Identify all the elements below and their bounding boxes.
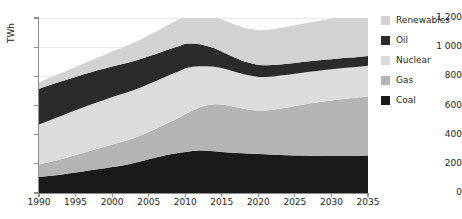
legend-label: Renewables xyxy=(396,15,450,25)
y-tick-label: 400 xyxy=(432,129,462,139)
legend-swatch-icon xyxy=(381,16,390,25)
legend-item-gas[interactable]: Gas xyxy=(381,70,461,90)
legend-swatch-icon xyxy=(381,96,390,105)
plot-area xyxy=(39,18,368,193)
x-tick-label: 2025 xyxy=(275,197,315,207)
area-layers xyxy=(39,18,368,193)
x-tick-label: 2035 xyxy=(348,197,388,207)
legend-item-coal[interactable]: Coal xyxy=(381,90,461,110)
chart-screenshot: Scenario TWh 02004006008001 0001 200 199… xyxy=(0,0,462,219)
legend-label: Nuclear xyxy=(396,55,431,65)
legend-swatch-icon xyxy=(381,56,390,65)
legend-item-oil[interactable]: Oil xyxy=(381,30,461,50)
y-axis-label: TWh xyxy=(6,13,16,53)
legend-swatch-icon xyxy=(381,76,390,85)
y-axis-line xyxy=(38,17,39,194)
legend-label: Gas xyxy=(396,75,413,85)
legend-item-nuclear[interactable]: Nuclear xyxy=(381,50,461,70)
y-tick-label: 0 xyxy=(432,187,462,197)
legend-swatch-icon xyxy=(381,36,390,45)
legend-label: Oil xyxy=(396,35,408,45)
x-tick-label: 1990 xyxy=(19,197,59,207)
x-tick-label: 2020 xyxy=(238,197,278,207)
x-tick-label: 2000 xyxy=(92,197,132,207)
x-tick-label: 2010 xyxy=(165,197,205,207)
y-tick-label: 200 xyxy=(432,158,462,168)
x-tick-label: 1995 xyxy=(56,197,96,207)
chart-legend: RenewablesOilNuclearGasCoal xyxy=(381,10,461,110)
chart-title: Scenario xyxy=(0,0,370,5)
x-axis-line xyxy=(38,193,369,194)
x-tick-label: 2015 xyxy=(202,197,242,207)
stacked-area-svg xyxy=(39,18,368,193)
x-tick-label: 2030 xyxy=(311,197,351,207)
x-tick-label: 2005 xyxy=(129,197,169,207)
legend-label: Coal xyxy=(396,95,416,105)
legend-item-renewables[interactable]: Renewables xyxy=(381,10,461,30)
